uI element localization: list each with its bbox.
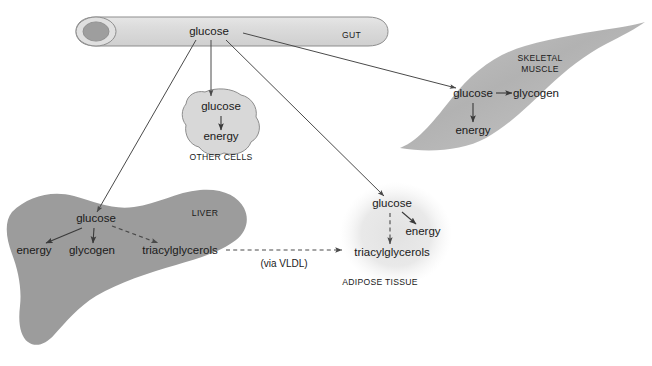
liver-energy-label: energy [16,244,51,256]
muscle-energy-label: energy [455,124,490,136]
metabolism-diagram: GUT glucose glucose energy OTHER CELLS S… [0,0,652,366]
adipose-organ-label: ADIPOSE TISSUE [342,277,418,287]
liver-glycogen-label: glycogen [69,244,115,256]
organ-liver: LIVER glucose energy glycogen triacylgly… [7,190,247,345]
organ-gut: GUT glucose [76,17,388,46]
organ-other-cells: glucose energy OTHER CELLS [182,89,259,162]
gut-lumen [83,22,109,41]
adipose-glucose-label: glucose [372,197,412,209]
liver-glucose-label: glucose [76,212,116,224]
organ-adipose-tissue: glucose energy triacylglycerols ADIPOSE … [340,182,452,287]
liver-triacylglycerols-label: triacylglycerols [142,244,218,256]
liver-organ-label: LIVER [192,208,218,218]
organ-skeletal-muscle: SKELETAL MUSCLE glucose glycogen energy [400,22,645,151]
diagram-canvas: GUT glucose glucose energy OTHER CELLS S… [0,0,652,366]
muscle-glucose-label: glucose [453,87,493,99]
other-cells-energy-label: energy [203,130,238,142]
adipose-energy-label: energy [405,225,440,237]
arrow-gut-to-liver [97,40,196,212]
other-cells-organ-label: OTHER CELLS [190,152,253,162]
muscle-organ-label-line2: MUSCLE [521,64,559,74]
muscle-glycogen-label: glycogen [513,87,559,99]
muscle-organ-label-line1: SKELETAL [517,53,562,63]
adipose-triacylglycerols-label: triacylglycerols [354,246,430,258]
vldl-label: (via VLDL) [260,258,307,269]
gut-organ-label: GUT [342,30,361,40]
gut-glucose-label: glucose [189,25,229,37]
vldl-transport: (via VLDL) [226,250,342,269]
other-cells-glucose-label: glucose [201,100,241,112]
